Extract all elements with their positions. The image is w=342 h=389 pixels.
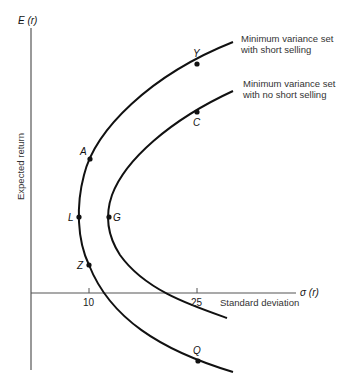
curve-no-short-selling <box>108 91 233 318</box>
x-axis-title: Standard deviation <box>220 297 299 308</box>
tick-label-10: 10 <box>83 297 95 308</box>
legend-no-short-selling-line2: with no short selling <box>242 89 326 100</box>
y-axis-title: Expected return <box>15 133 26 200</box>
label-G: G <box>113 212 121 223</box>
point-L <box>76 214 81 219</box>
legend-short-selling-line1: Minimum variance set <box>241 33 334 44</box>
curve-short-selling <box>79 42 233 372</box>
chart: Y C A L G Z Q E (r) σ (r) 10 25 Standard… <box>0 0 342 389</box>
point-A <box>87 156 92 161</box>
point-Y <box>194 61 199 66</box>
label-A: A <box>79 146 87 157</box>
label-L: L <box>68 212 74 223</box>
point-C <box>194 109 199 114</box>
label-C: C <box>193 117 201 128</box>
point-G <box>106 214 111 219</box>
label-Z: Z <box>76 260 84 271</box>
legend-short-selling-line2: with short selling <box>240 44 311 55</box>
data-points <box>76 61 200 363</box>
y-axis-symbol: E (r) <box>18 15 37 26</box>
point-Z <box>86 262 91 267</box>
label-Q: Q <box>193 345 201 356</box>
legend-no-short-selling-line1: Minimum variance set <box>243 78 336 89</box>
tick-label-25: 25 <box>191 297 203 308</box>
point-Q <box>195 358 200 363</box>
x-axis-symbol: σ (r) <box>300 287 319 298</box>
